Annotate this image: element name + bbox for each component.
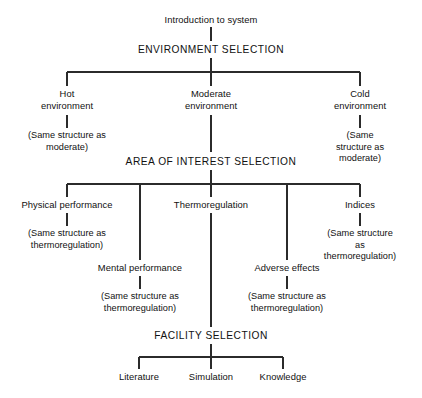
node-indices[interactable]: Indices (345, 199, 375, 211)
heading-area-of-interest-selection: AREA OF INTEREST SELECTION (126, 156, 297, 168)
node-simulation[interactable]: Simulation (189, 371, 233, 383)
node-hot-environment[interactable]: Hot environment (41, 88, 93, 111)
note-cold-same-structure: (Same structure as moderate) (329, 130, 391, 165)
node-literature[interactable]: Literature (119, 371, 159, 383)
note-indices-same-structure: (Same structure as thermoregulation) (324, 228, 396, 263)
note-adverse-effects-same-structure: (Same structure as thermoregulation) (248, 291, 326, 314)
node-mental-performance[interactable]: Mental performance (98, 262, 182, 274)
note-mental-performance-same-structure: (Same structure as thermoregulation) (101, 291, 179, 314)
note-hot-same-structure: (Same structure as moderate) (28, 130, 106, 153)
node-physical-performance[interactable]: Physical performance (21, 199, 112, 211)
heading-facility-selection: FACILITY SELECTION (154, 330, 268, 342)
flowchart-diagram: Introduction to system ENVIRONMENT SELEC… (0, 0, 422, 398)
node-adverse-effects[interactable]: Adverse effects (254, 262, 319, 274)
node-knowledge[interactable]: Knowledge (260, 371, 307, 383)
node-moderate-environment[interactable]: Moderate environment (185, 88, 237, 111)
node-thermoregulation[interactable]: Thermoregulation (174, 199, 248, 211)
note-physical-performance-same-structure: (Same structure as thermoregulation) (28, 228, 106, 251)
heading-environment-selection: ENVIRONMENT SELECTION (138, 44, 284, 56)
node-cold-environment[interactable]: Cold environment (334, 88, 386, 111)
node-introduction-to-system[interactable]: Introduction to system (165, 14, 258, 26)
